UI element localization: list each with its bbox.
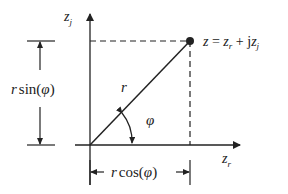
- y-axis-label: zj: [63, 9, 72, 27]
- radius-label: r: [121, 79, 127, 95]
- horizontal-dimension-label: rcos(φ): [111, 164, 157, 181]
- radius-vector: [90, 41, 190, 145]
- polar-complex-diagram: zj zr z = zr + jzj r φ rsin(φ) rcos(φ): [0, 0, 288, 194]
- angle-label: φ: [146, 112, 154, 128]
- angle-arc: [122, 113, 132, 143]
- vertical-dimension-label: rsin(φ): [11, 81, 55, 98]
- point-label: z = zr + jzj: [202, 34, 260, 51]
- point-marker: [186, 37, 194, 45]
- x-axis-label: zr: [221, 151, 231, 169]
